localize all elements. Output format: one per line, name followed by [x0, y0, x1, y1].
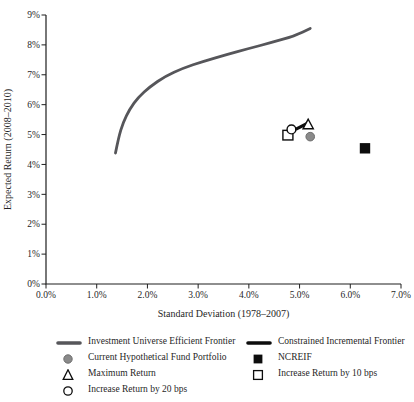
y-tick-label: 6% [27, 100, 40, 110]
legend-label: Increase Return by 10 bps [278, 367, 377, 379]
open-circle-icon [56, 385, 84, 397]
legend-label: Constrained Incremental Frontier [278, 335, 405, 347]
filled-circle-icon [56, 353, 84, 365]
y-tick-label: 3% [27, 190, 40, 200]
x-tick-label: 3.0% [188, 290, 208, 300]
legend-item-investment-universe-efficient-frontier: Investment Universe Efficient Frontier [56, 333, 235, 349]
legend-symbol [246, 351, 274, 363]
y-tick-label: 0% [27, 279, 40, 289]
marker-ncreif [360, 143, 370, 153]
y-tick-label: 1% [27, 249, 40, 259]
legend-item-increase-return-by-10-bps: Increase Return by 10 bps [246, 365, 405, 381]
legend-item-ncreif: NCREIF [246, 349, 405, 365]
legend-column-right: Constrained Incremental FrontierNCREIFIn… [246, 330, 405, 381]
y-axis-title: Expected Return (2008–2010) [2, 89, 14, 210]
y-tick-label: 9% [27, 10, 40, 20]
x-axis-title: Standard Deviation (1978–2007) [158, 308, 290, 320]
thick-line-icon [246, 337, 274, 349]
y-tick-label: 2% [27, 219, 40, 229]
legend-item-constrained-incremental-frontier: Constrained Incremental Frontier [246, 333, 405, 349]
legend-label: Increase Return by 20 bps [88, 383, 187, 395]
legend-symbol [56, 367, 84, 379]
x-tick-label: 0.0% [36, 290, 56, 300]
legend-label: Current Hypothetical Fund Portfolio [88, 351, 227, 363]
y-tick-label: 4% [27, 160, 40, 170]
series-investment-universe-efficient-frontier [115, 28, 310, 153]
legend-symbol [56, 383, 84, 395]
legend-item-maximum-return: Maximum Return [56, 365, 235, 381]
thick-line-icon [56, 337, 84, 349]
x-tick-label: 1.0% [87, 290, 107, 300]
legend-symbol [246, 367, 274, 379]
x-tick-label: 5.0% [290, 290, 310, 300]
legend-symbol [56, 351, 84, 363]
x-tick-label: 6.0% [340, 290, 360, 300]
y-tick-label: 5% [27, 130, 40, 140]
legend-symbol [246, 335, 274, 347]
legend-column-left: Investment Universe Efficient FrontierCu… [56, 330, 235, 397]
legend-label: NCREIF [278, 351, 312, 363]
plot-area: 0%1%2%3%4%5%6%7%8%9%0.0%1.0%2.0%3.0%4.0%… [0, 0, 414, 328]
legend-item-current-hypothetical-fund-portfolio: Current Hypothetical Fund Portfolio [56, 349, 235, 365]
filled-square-icon [246, 353, 274, 365]
marker-current-hypothetical-fund-portfolio [306, 132, 315, 141]
x-tick-label: 4.0% [239, 290, 259, 300]
legend-symbol [56, 335, 84, 347]
y-tick-label: 8% [27, 40, 40, 50]
marker-increase-return-by-20-bps [287, 125, 296, 134]
y-tick-label: 7% [27, 70, 40, 80]
open-square-icon [246, 369, 274, 381]
x-tick-label: 2.0% [138, 290, 158, 300]
legend-label: Maximum Return [88, 367, 156, 379]
efficient-frontier-figure: 0%1%2%3%4%5%6%7%8%9%0.0%1.0%2.0%3.0%4.0%… [0, 0, 414, 402]
x-tick-label: 7.0% [391, 290, 411, 300]
legend-label: Investment Universe Efficient Frontier [88, 335, 235, 347]
open-triangle-icon [56, 369, 84, 381]
legend-item-increase-return-by-20-bps: Increase Return by 20 bps [56, 381, 235, 397]
